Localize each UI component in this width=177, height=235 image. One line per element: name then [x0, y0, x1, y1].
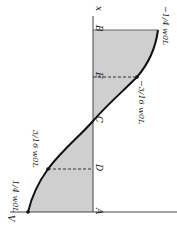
- value-e-label: −3/16 w0L: [137, 80, 146, 124]
- diagram-canvas: [0, 0, 177, 235]
- value-b-label: −1/4 w0L: [161, 6, 170, 45]
- point-b-label: B: [94, 25, 104, 32]
- shear-diagram: x V B E C D A 1/4 w0L 3/16 w0L −3/16 w0L…: [0, 0, 177, 235]
- x-axis-label: x: [94, 6, 104, 11]
- point-a-dot: [26, 210, 30, 214]
- point-e-label: E: [94, 72, 104, 79]
- point-e-dot: [135, 75, 139, 79]
- value-d-label: 3/16 w0L: [31, 130, 40, 168]
- point-a-label: A: [94, 208, 104, 215]
- v-axis-label: V: [6, 215, 16, 222]
- value-a-label: 1/4 w0L: [11, 180, 20, 213]
- point-c-label: C: [94, 116, 104, 123]
- point-d-label: D: [94, 164, 104, 171]
- point-d-dot: [46, 167, 50, 171]
